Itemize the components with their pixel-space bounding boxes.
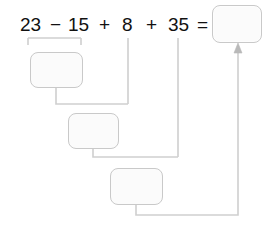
operator-minus: − xyxy=(50,15,61,34)
step-1-input-box[interactable] xyxy=(30,52,83,88)
arrowhead-icon xyxy=(234,43,242,53)
operand-8: 8 xyxy=(122,15,133,34)
math-worksheet-canvas: 23 − 15 + 8 + 35 = xyxy=(0,0,272,237)
operand-23: 23 xyxy=(20,15,41,34)
step-2-input-box[interactable] xyxy=(68,113,119,149)
operator-equals: = xyxy=(197,15,208,34)
answer-input-box[interactable] xyxy=(212,5,262,43)
operand-35: 35 xyxy=(168,15,189,34)
connector-step2-to-step3 xyxy=(93,149,178,157)
step-3-input-box[interactable] xyxy=(110,168,163,205)
operator-plus-2: + xyxy=(146,15,157,34)
bracket-23-minus-15 xyxy=(28,38,81,45)
connector-step1-to-step2 xyxy=(56,88,128,104)
operand-15: 15 xyxy=(68,15,89,34)
operator-plus-1: + xyxy=(99,15,110,34)
